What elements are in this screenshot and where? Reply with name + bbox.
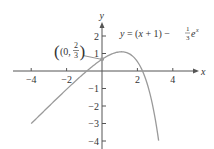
x-axis-label: x — [200, 66, 206, 77]
y-tick-label: 1 — [94, 48, 99, 59]
close-paren: ) — [80, 42, 86, 61]
y-tick-label: −2 — [88, 101, 99, 112]
point-annotation-label: ( (0, 2 3 ) — [54, 41, 85, 61]
eq-frac-den: 3 — [186, 34, 190, 42]
svg-text:y = (x + 1) −: y = (x + 1) − — [119, 28, 170, 40]
y-intercept-point — [100, 57, 104, 61]
eq-lhs-rest: = ( — [124, 28, 139, 40]
equation-label: y = (x + 1) − 1 3 e x — [119, 25, 199, 42]
x-tick-label: −2 — [61, 74, 72, 85]
x-tick-label: 4 — [170, 74, 175, 85]
y-tick-label: −4 — [88, 136, 99, 147]
y-tick-label: 2 — [94, 31, 99, 42]
function-graph: x y −4−224 21−1−2−3−4 ( (0, 2 3 ) y = (x… — [0, 0, 214, 149]
x-tick-label: −4 — [26, 74, 37, 85]
x-tick-label: 2 — [135, 74, 140, 85]
y-tick-label: −1 — [88, 83, 99, 94]
x-axis-arrow-icon — [193, 69, 199, 74]
y-tick-label: −3 — [88, 118, 99, 129]
annotation-frac-num: 2 — [74, 41, 78, 50]
annotation-x: (0, — [60, 46, 71, 58]
eq-exponent: x — [195, 27, 199, 33]
annotation-frac-den: 3 — [74, 51, 78, 60]
eq-frac-num: 1 — [186, 25, 190, 33]
y-axis-label: y — [99, 10, 105, 21]
y-axis-arrow-icon — [100, 22, 105, 28]
y-ticks: 21−1−2−3−4 — [88, 31, 106, 147]
